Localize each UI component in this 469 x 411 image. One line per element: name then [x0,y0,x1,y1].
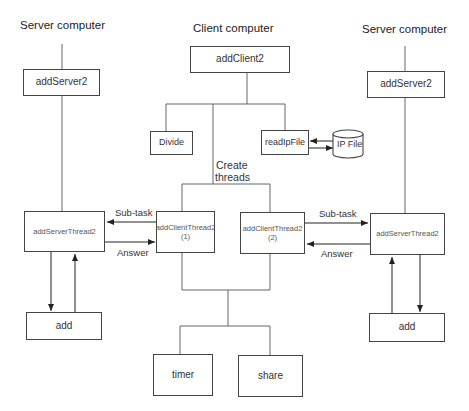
client-title: Client computer [193,22,274,34]
node-divide: Divide [150,131,193,155]
node-addserver2-left: addServer2 [23,69,100,96]
node-addclientthread2-2: addClientThread2 (2) [240,212,305,254]
node-ip-file-label: IP File [337,139,362,149]
thread-index: (2) [268,233,277,242]
node-addserver2-right: addServer2 [367,71,445,98]
left-server-title: Server computer [20,19,105,31]
node-share: share [238,355,303,397]
node-addclient2: addClient2 [190,46,290,73]
node-readipfile: readIpFile [261,130,309,155]
node-addserverthread2-right: addServerThread2 [370,213,445,255]
thread-name: addClientThread2 [243,224,303,233]
create-threads-label-2: threads [215,171,250,183]
thread-name: addClientThread2 [156,223,216,232]
node-addserverthread2-left: addServerThread2 [24,211,105,252]
thread-index: (1) [181,232,190,241]
answer-right-label: Answer [321,248,353,259]
subtask-left-label: Sub-task [115,207,153,218]
node-addclientthread2-1: addClientThread2 (1) [156,211,215,253]
node-add-right: add [369,313,445,342]
create-threads-label-1: Create [216,159,248,171]
answer-left-label: Answer [117,247,149,258]
right-server-title: Server computer [362,23,447,35]
node-timer: timer [153,354,213,396]
node-add-left: add [26,312,102,340]
subtask-right-label: Sub-task [319,208,357,219]
